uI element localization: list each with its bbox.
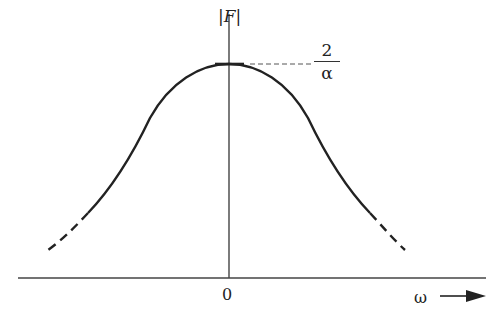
fraction-denominator: α — [314, 63, 340, 83]
right-dashed-tail — [370, 213, 405, 250]
y-axis-label: |F| — [218, 6, 241, 26]
x-axis-label: ω — [414, 288, 427, 307]
diagram-canvas — [0, 0, 494, 326]
fraction-bar — [314, 61, 340, 62]
peak-value-annotation: 2 α — [314, 40, 340, 83]
fraction-numerator: 2 — [314, 40, 340, 60]
origin-label: 0 — [222, 285, 232, 304]
left-dashed-tail — [48, 213, 88, 250]
x-arrow-icon — [466, 290, 486, 302]
